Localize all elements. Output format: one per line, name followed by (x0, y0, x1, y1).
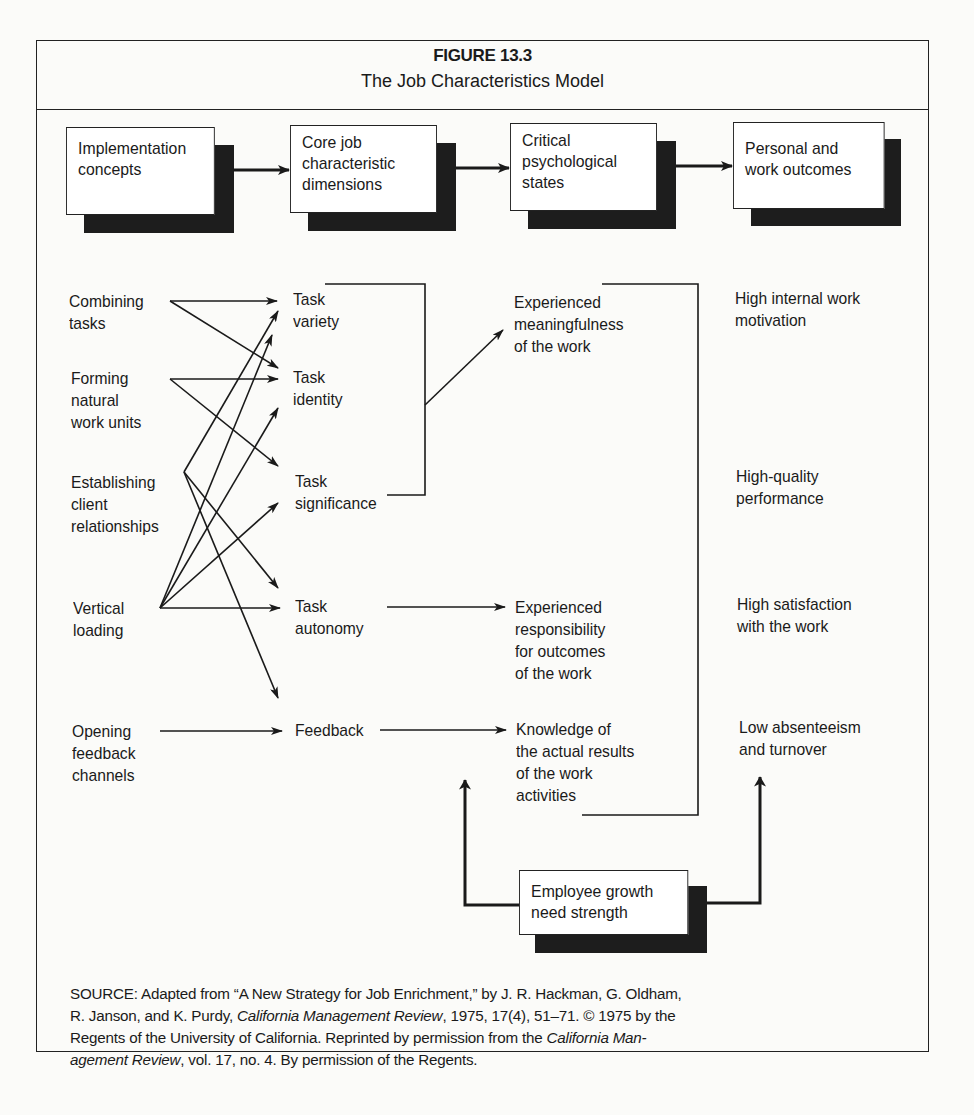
concept-vertical-loading: Vertical loading (73, 598, 124, 642)
label-line: with the work (737, 616, 852, 638)
label-line: Experienced (515, 597, 605, 619)
label-line: tasks (69, 313, 144, 335)
label-line: variety (293, 311, 339, 333)
label-line: and turnover (739, 739, 861, 761)
dimension-feedback: Feedback (295, 720, 364, 742)
concept-combining-tasks: Combining tasks (69, 291, 144, 335)
state-experienced-responsibility: Experienced responsibility for outcomes … (515, 597, 605, 685)
label-line: Experienced (514, 292, 624, 314)
dimension-task-significance: Task significance (295, 471, 377, 515)
label-line: natural (71, 390, 141, 412)
label-line: Forming (71, 368, 141, 390)
concept-establishing-client-relationships: Establishing client relationships (71, 472, 159, 538)
label-line: work units (71, 412, 141, 434)
label-line: loading (73, 620, 124, 642)
outcome-low-absenteeism-turnover: Low absenteeism and turnover (739, 717, 861, 761)
label-line: responsibility (515, 619, 605, 641)
label-line: for outcomes (515, 641, 605, 663)
box-label-line: Employee growth (531, 881, 687, 902)
source-text: , 1975, 17(4), 51–71. © 1975 by the (442, 1007, 675, 1024)
label-line: feedback (72, 743, 135, 765)
label-line: Task (295, 471, 377, 493)
label-line: High-quality (736, 466, 824, 488)
label-line: Establishing (71, 472, 159, 494)
label-line: of the work (516, 763, 634, 785)
moderator-box-growth-need-strength: Employee growth need strength (519, 870, 688, 935)
source-text: Regents of the University of California.… (70, 1029, 546, 1046)
label-line: High internal work (735, 288, 860, 310)
box-label-line: need strength (531, 902, 687, 923)
source-journal-title: agement Review (70, 1051, 180, 1068)
label-line: Vertical (73, 598, 124, 620)
label-line: autonomy (295, 618, 364, 640)
concept-opening-feedback-channels: Opening feedback channels (72, 721, 135, 787)
label-line: High satisfaction (737, 594, 852, 616)
label-line: Combining (69, 291, 144, 313)
label-line: Opening (72, 721, 135, 743)
state-experienced-meaningfulness: Experienced meaningfulness of the work (514, 292, 624, 358)
label-line: Feedback (295, 720, 364, 742)
label-line: performance (736, 488, 824, 510)
source-text: SOURCE: Adapted from “A New Strategy for… (70, 985, 682, 1002)
label-line: meaningfulness (514, 314, 624, 336)
label-line: identity (293, 389, 343, 411)
label-line: of the work (515, 663, 605, 685)
label-line: Task (293, 367, 343, 389)
source-text: R. Janson, and K. Purdy, (70, 1007, 237, 1024)
connector-arrows (0, 0, 974, 1115)
concept-forming-natural-work-units: Forming natural work units (71, 368, 141, 434)
outcome-high-quality-performance: High-quality performance (736, 466, 824, 510)
label-line: motivation (735, 310, 860, 332)
label-line: Low absenteeism (739, 717, 861, 739)
outcome-high-satisfaction: High satisfaction with the work (737, 594, 852, 638)
label-line: activities (516, 785, 634, 807)
source-journal-title: California Man- (546, 1029, 646, 1046)
label-line: Task (295, 596, 364, 618)
outcome-high-internal-work-motivation: High internal work motivation (735, 288, 860, 332)
label-line: Knowledge of (516, 719, 634, 741)
source-journal-title: California Management Review (237, 1007, 442, 1024)
label-line: the actual results (516, 741, 634, 763)
label-line: client (71, 494, 159, 516)
source-caption: SOURCE: Adapted from “A New Strategy for… (70, 983, 920, 1071)
label-line: significance (295, 493, 377, 515)
label-line: Task (293, 289, 339, 311)
label-line: of the work (514, 336, 624, 358)
state-knowledge-of-results: Knowledge of the actual results of the w… (516, 719, 634, 807)
dimension-task-autonomy: Task autonomy (295, 596, 364, 640)
label-line: relationships (71, 516, 159, 538)
source-text: , vol. 17, no. 4. By permission of the R… (180, 1051, 477, 1068)
dimension-task-identity: Task identity (293, 367, 343, 411)
dimension-task-variety: Task variety (293, 289, 339, 333)
label-line: channels (72, 765, 135, 787)
